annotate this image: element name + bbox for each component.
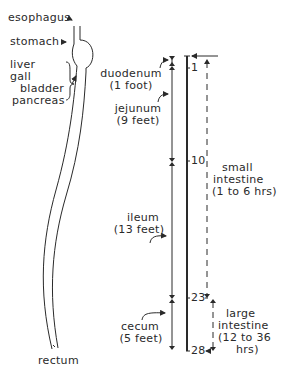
intestine-tube-left <box>43 66 77 349</box>
organ-bracket <box>66 62 74 100</box>
label-esophagus: esophagus <box>8 12 70 24</box>
label-stomach: stomach <box>10 36 59 48</box>
label-small-time: (1 to 6 hrs) <box>212 186 277 198</box>
intestine-tube-right <box>52 72 86 348</box>
label-pancreas: pancreas <box>12 95 65 107</box>
tick-28: 28 <box>191 345 206 357</box>
stomach-outline <box>80 40 93 72</box>
label-jejunum-length: (9 feet) <box>110 115 166 127</box>
label-ileum-length: (13 feet) <box>108 224 170 236</box>
label-rectum: rectum <box>38 355 79 367</box>
label-duodenum-length: (1 foot) <box>98 80 164 92</box>
tick-10: 10 <box>191 155 206 167</box>
tick-23: 23 <box>191 292 206 304</box>
tick-1: 1 <box>191 62 198 74</box>
label-large-time-unit: hrs) <box>236 344 259 356</box>
label-cecum-length: (5 feet) <box>112 333 170 345</box>
